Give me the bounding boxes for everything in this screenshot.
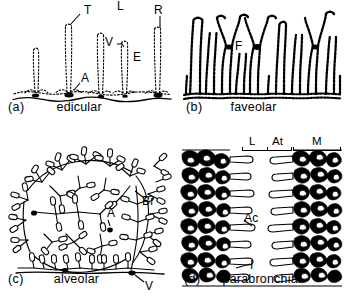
leader-line-A bbox=[74, 83, 80, 90]
panel-b-vessel bbox=[312, 45, 319, 50]
panel-c-label-V: V bbox=[145, 280, 153, 292]
panel-a-label-V: V bbox=[105, 36, 113, 48]
panel-b-label-F: F bbox=[235, 40, 243, 52]
panel-a-label-A: A bbox=[81, 72, 89, 84]
panel-b-vessel bbox=[225, 44, 232, 49]
zone-bar-M-tick-right bbox=[340, 147, 341, 151]
panel-b-letter: (b) bbox=[186, 100, 202, 114]
panel-a-letter: (a) bbox=[8, 100, 24, 114]
zone-bar-At-tick-right bbox=[291, 147, 292, 151]
zone-bar-M bbox=[293, 150, 341, 151]
panel-d-right-mantle bbox=[292, 150, 342, 282]
panel-c-label-A: A bbox=[107, 207, 115, 219]
panel-c-label-Br: Br bbox=[142, 195, 154, 207]
panel-a-vessel bbox=[32, 94, 39, 98]
panel-c-vessel bbox=[31, 210, 37, 215]
zone-label-M: M bbox=[312, 136, 322, 148]
panel-d-right-atria bbox=[268, 156, 293, 282]
panel-c-caption: (c) alveolar bbox=[8, 272, 99, 286]
zone-bar-M-tick-left bbox=[293, 147, 294, 151]
panel-d-label-Ac: Ac bbox=[244, 212, 258, 224]
zone-bar-L-tick-left bbox=[242, 147, 243, 151]
panel-d-name: parabronchial bbox=[222, 272, 300, 286]
panel-a-vessel bbox=[64, 93, 73, 98]
leader-line-T bbox=[70, 14, 80, 25]
leader-line-V bbox=[117, 44, 124, 47]
panel-c-letter: (c) bbox=[8, 272, 24, 286]
panel-a-label-R: R bbox=[154, 4, 163, 16]
leader-line-V bbox=[135, 275, 144, 282]
panel-b-vessel bbox=[253, 44, 261, 50]
panel-a-label-L: L bbox=[117, 0, 124, 12]
lung-morphology-figure: T L R V E A (a) edicular bbox=[0, 0, 346, 302]
panel-a-caption: (a) edicular bbox=[8, 100, 102, 114]
panel-a-label-T: T bbox=[84, 4, 92, 16]
panel-d-left-mantle bbox=[181, 150, 231, 283]
panel-d-letter: (d) bbox=[184, 272, 200, 286]
panel-a-label-E: E bbox=[133, 51, 141, 63]
panel-a-name: edicular bbox=[56, 100, 101, 114]
leader-line-A bbox=[108, 220, 110, 226]
panel-b-name: faveolar bbox=[230, 100, 276, 114]
panel-d-label-I: I bbox=[250, 259, 254, 271]
panel-a-vessel bbox=[98, 95, 104, 99]
panel-c-vessel bbox=[128, 271, 135, 276]
zone-label-At: At bbox=[272, 136, 283, 148]
panel-a-vessel bbox=[154, 93, 163, 98]
panel-c-vessel bbox=[107, 228, 113, 233]
zone-label-L: L bbox=[249, 136, 255, 148]
panel-c-name: alveolar bbox=[54, 272, 99, 286]
panel-a-vessel bbox=[122, 95, 128, 98]
zone-bar-L bbox=[242, 150, 268, 151]
panel-b-caption: (b) faveolar bbox=[186, 100, 277, 114]
zone-bar-At bbox=[268, 150, 292, 151]
panel-d-caption: (d) parabronchial bbox=[184, 272, 301, 286]
